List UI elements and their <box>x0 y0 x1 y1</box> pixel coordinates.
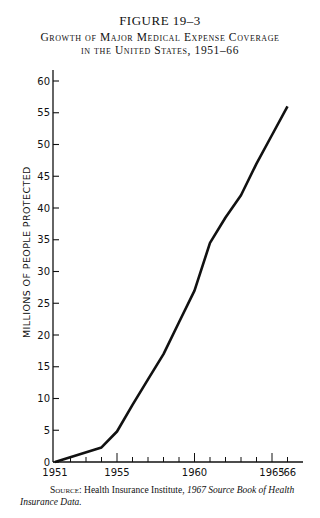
x-tick-label: 1960 <box>182 467 207 478</box>
line-chart: 051015202530354045505560 195119551960196… <box>0 0 320 518</box>
y-axis-ticks: 051015202530354045505560 <box>37 76 59 468</box>
data-line <box>55 106 288 462</box>
y-tick-label: 10 <box>37 393 50 404</box>
y-tick-label: 30 <box>37 266 50 277</box>
x-tick-label: 1951 <box>42 467 67 478</box>
y-tick-label: 55 <box>37 107 50 118</box>
x-tick-label: 1955 <box>104 467 129 478</box>
y-tick-label: 20 <box>37 330 50 341</box>
y-tick-label: 25 <box>37 298 50 309</box>
y-tick-label: 15 <box>37 361 50 372</box>
y-tick-label: 0 <box>44 457 50 468</box>
source-text: Health Insurance Institute, <box>82 485 187 495</box>
axes <box>53 70 303 462</box>
source-note: Source: Health Insurance Institute, 1967… <box>20 484 307 508</box>
y-axis-label: MILLIONS OF PEOPLE PROTECTED <box>21 166 32 338</box>
y-tick-label: 50 <box>37 139 50 150</box>
y-tick-label: 5 <box>44 425 50 436</box>
y-tick-label: 40 <box>37 203 50 214</box>
source-prefix: Source: <box>50 485 82 495</box>
x-tick-label: '66 <box>281 467 296 478</box>
y-tick-label: 45 <box>37 171 50 182</box>
y-tick-label: 35 <box>37 234 50 245</box>
x-axis-ticks: 1951195519601965'66 <box>42 453 296 478</box>
y-tick-label: 60 <box>37 76 50 87</box>
